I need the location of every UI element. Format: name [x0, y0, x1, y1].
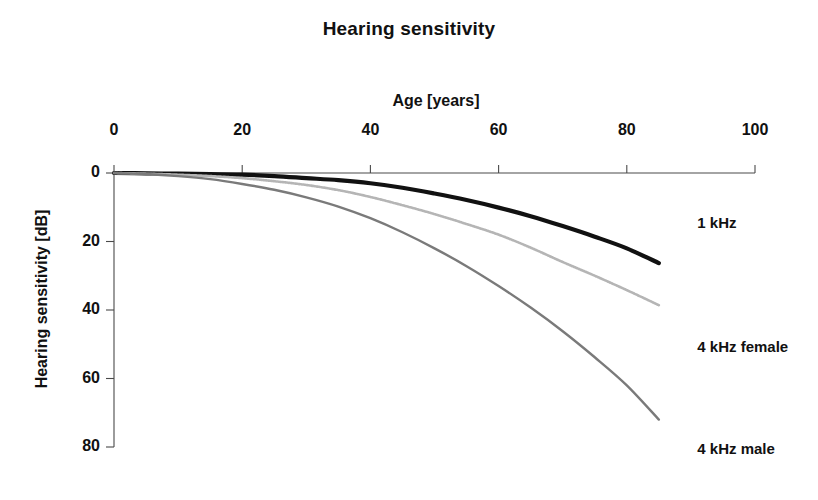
x-tick-label: 100 [725, 121, 785, 139]
x-tick-label: 80 [597, 121, 657, 139]
y-tick-label: 0 [40, 163, 100, 181]
curve-4-khz-male [114, 173, 659, 420]
y-tick-label: 40 [40, 300, 100, 318]
curve-4-khz-female [114, 173, 659, 305]
x-tick-label: 0 [84, 121, 144, 139]
x-tick-label: 20 [212, 121, 272, 139]
plot-area [0, 0, 818, 500]
series-label-4-khz-female: 4 kHz female [697, 338, 788, 355]
curve-1-khz [114, 173, 659, 263]
x-tick-label: 60 [469, 121, 529, 139]
y-tick-label: 20 [40, 232, 100, 250]
y-tick-label: 60 [40, 369, 100, 387]
chart-figure: Hearing sensitivity Age [years] Hearing … [0, 0, 818, 500]
series-label-4-khz-male: 4 kHz male [697, 440, 775, 457]
series-label-1-khz: 1 kHz [697, 214, 736, 231]
y-tick-label: 80 [40, 437, 100, 455]
x-tick-label: 40 [340, 121, 400, 139]
curves-group [114, 173, 659, 420]
